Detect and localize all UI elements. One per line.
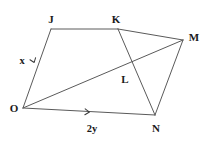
- vertex-label-n: N: [152, 123, 160, 134]
- vertex-label-l: L: [121, 74, 128, 85]
- measure-label-2y: 2y: [87, 124, 98, 135]
- side-j-o: [23, 29, 51, 108]
- measure-label-x: x: [19, 56, 24, 67]
- figure-tick-marks: [30, 58, 90, 115]
- single-arrow-tick-side-on: [85, 109, 90, 115]
- vertex-label-j: J: [48, 14, 54, 25]
- side-m-n: [155, 40, 183, 115]
- geometry-figure: J K M L O N x 2y: [0, 0, 214, 141]
- figure-canvas: [0, 0, 214, 141]
- vertex-label-k: K: [112, 14, 121, 25]
- diagonal-o-m: [23, 40, 183, 108]
- vertex-label-o: O: [10, 103, 19, 114]
- figure-strokes: [23, 29, 183, 115]
- vertex-label-m: M: [189, 32, 199, 43]
- single-arrow-tick-side-jo: [30, 58, 37, 64]
- side-k-m: [118, 29, 183, 40]
